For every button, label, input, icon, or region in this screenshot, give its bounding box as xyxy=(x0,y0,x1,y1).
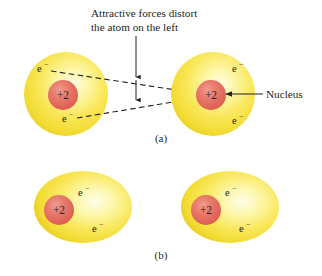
electron-charge: − xyxy=(99,220,103,229)
electron-symbol: e xyxy=(239,223,244,234)
annotation-line-1: Attractive forces distort xyxy=(91,7,198,19)
panel-b-label: (b) xyxy=(155,249,168,262)
electron-charge: − xyxy=(44,60,48,69)
nucleus-charge-label: +2 xyxy=(200,204,212,216)
electron-symbol: e xyxy=(232,63,237,74)
annotation-line-2: the atom on the left xyxy=(91,21,179,33)
electron-charge: − xyxy=(246,220,250,229)
electron-charge: − xyxy=(239,60,243,69)
physics-figure: Attractive forces distort the atom on th… xyxy=(0,0,322,276)
atom-a-left: +2 e − e − xyxy=(24,52,108,136)
electron-charge: − xyxy=(232,184,236,193)
atom-b-right: +2 e − e − xyxy=(181,171,279,243)
electron-charge: − xyxy=(69,110,73,119)
nucleus-charge-label: +2 xyxy=(53,204,65,216)
electron-charge: − xyxy=(239,112,243,121)
electron-symbol: e xyxy=(92,223,97,234)
electron-symbol: e xyxy=(78,187,83,198)
electron-symbol: e xyxy=(37,63,42,74)
nucleus-callout-label: Nucleus xyxy=(266,88,303,100)
electron-symbol: e xyxy=(62,113,67,124)
electron-symbol: e xyxy=(232,115,237,126)
electron-symbol: e xyxy=(225,187,230,198)
nucleus-charge-label: +2 xyxy=(205,89,217,101)
electron-charge: − xyxy=(85,184,89,193)
nucleus-charge-label: +2 xyxy=(57,89,69,101)
panel-a-label: (a) xyxy=(155,132,168,145)
atom-b-left: +2 e − e − xyxy=(34,171,132,243)
